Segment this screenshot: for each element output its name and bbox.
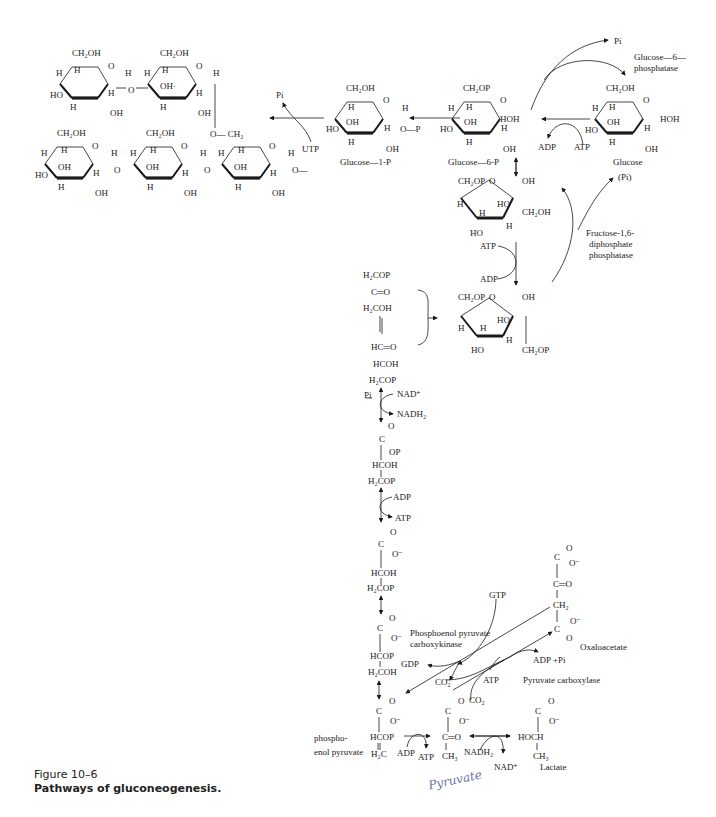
svg-text:O: O [92, 141, 99, 151]
svg-text:H: H [506, 221, 513, 231]
svg-text:O— CH₂: O— CH₂ [210, 129, 243, 139]
svg-text:O⁻: O⁻ [569, 558, 581, 568]
svg-text:O: O [204, 165, 211, 175]
svg-text:NADH₂: NADH₂ [397, 409, 426, 419]
svg-text:H: H [288, 148, 295, 158]
svg-text:C: C [376, 706, 382, 716]
svg-text:H₂COP: H₂COP [369, 375, 396, 385]
svg-text:C: C [378, 539, 384, 549]
svg-text:phospho-: phospho- [314, 733, 348, 743]
svg-text:O: O [108, 61, 115, 71]
svg-text:HOCH: HOCH [518, 732, 544, 742]
svg-text:C═O: C═O [553, 579, 572, 589]
svg-text:O: O [269, 141, 276, 151]
svg-text:CH₂OH: CH₂OH [57, 128, 86, 138]
svg-text:O⁻: O⁻ [392, 549, 404, 559]
svg-text:CH₂OP: CH₂OP [463, 83, 490, 93]
svg-text:H₂COP: H₂COP [368, 476, 395, 486]
svg-text:H: H [384, 123, 391, 133]
svg-text:CH₂OP: CH₂OP [522, 345, 549, 355]
svg-text:C: C [554, 624, 560, 634]
svg-text:C: C [379, 434, 385, 444]
svg-text:O: O [196, 61, 203, 71]
svg-text:CO₂: CO₂ [435, 677, 451, 687]
svg-text:ADP +Pi: ADP +Pi [533, 655, 566, 665]
svg-text:ATP: ATP [418, 752, 434, 762]
svg-text:C: C [445, 706, 451, 716]
svg-text:O: O [458, 696, 465, 706]
svg-text:H₂C: H₂C [371, 749, 387, 759]
svg-text:H: H [200, 148, 207, 158]
glucose-6-phosphate: CH₂OP O HH HOOH HH OH HOH Glucose—6-P [440, 83, 520, 167]
svg-text:H₂COH: H₂COH [363, 303, 392, 313]
svg-text:NADH₂: NADH₂ [464, 747, 493, 757]
svg-text:H: H [196, 88, 203, 98]
svg-text:O: O [489, 292, 496, 302]
3-phosphoglycerate: O C O⁻ HCOH H₂COP [367, 527, 404, 593]
svg-text:H: H [218, 148, 225, 158]
svg-text:H: H [130, 148, 137, 158]
svg-text:ATP: ATP [480, 241, 496, 251]
svg-text:O⁻: O⁻ [391, 633, 403, 643]
svg-text:ATP: ATP [395, 513, 411, 523]
svg-text:H: H [479, 208, 486, 218]
svg-text:Glucose—6—: Glucose—6— [634, 52, 687, 62]
svg-text:HO: HO [440, 124, 453, 134]
svg-text:H: H [270, 168, 277, 178]
svg-text:O⁻: O⁻ [459, 716, 471, 726]
svg-text:H: H [125, 68, 132, 78]
svg-text:H: H [644, 123, 651, 133]
fructose-bisphosphatase-reaction: ATP ADP (Pi) Fructose-1,6- diphosphate p… [480, 172, 634, 285]
svg-text:HOH: HOH [660, 114, 680, 124]
svg-text:Phosphoenol pyruvate: Phosphoenol pyruvate [410, 628, 490, 638]
svg-text:H: H [466, 102, 473, 112]
bisphosphoglycerate: O C OP HCOH H₂COP [368, 421, 401, 486]
svg-text:O: O [489, 176, 496, 186]
carboxylation-arrows: GTP Phosphoenol pyruvate carboxykinase G… [401, 590, 600, 705]
svg-text:Glucose—6-P: Glucose—6-P [448, 157, 499, 167]
svg-text:CO₂: CO₂ [469, 695, 485, 705]
svg-text:diphosphate: diphosphate [589, 239, 633, 249]
svg-text:CH₂OH: CH₂OH [522, 207, 551, 217]
svg-text:O—: O— [292, 165, 308, 175]
svg-text:HC═O: HC═O [371, 342, 397, 352]
svg-text:H: H [609, 102, 616, 112]
svg-text:H: H [70, 102, 77, 112]
svg-text:H: H [213, 68, 220, 78]
svg-text:HO: HO [497, 315, 510, 325]
svg-text:O⁻: O⁻ [390, 716, 402, 726]
svg-text:CH₃: CH₃ [533, 751, 549, 761]
svg-text:NAD⁺: NAD⁺ [494, 762, 519, 772]
svg-text:H: H [592, 103, 599, 113]
svg-text:CH₃: CH₃ [442, 751, 458, 761]
svg-text:HCOP: HCOP [370, 732, 394, 742]
svg-text:H: H [480, 323, 487, 333]
svg-text:OH: OH [272, 188, 285, 198]
svg-text:H₂COP: H₂COP [367, 583, 394, 593]
svg-text:O: O [114, 165, 121, 175]
glucose: CH₂OH O HH HOOH HH OH HOH Glucose [585, 83, 680, 167]
svg-text:H: H [448, 103, 455, 113]
svg-text:Pi: Pi [614, 36, 622, 46]
svg-text:ATP: ATP [483, 675, 499, 685]
svg-text:HCOH: HCOH [372, 460, 398, 470]
figure-number: Figure 10–6 [34, 768, 98, 781]
svg-text:OH: OH [346, 117, 359, 127]
svg-text:H: H [348, 137, 355, 147]
svg-text:Pyruvate carboxylase: Pyruvate carboxylase [523, 675, 600, 685]
svg-text:H: H [182, 168, 189, 178]
svg-text:OH·: OH· [160, 81, 176, 91]
svg-text:Pi: Pi [276, 90, 284, 100]
svg-text:H: H [348, 102, 355, 112]
svg-text:O: O [128, 85, 135, 95]
svg-text:OH: OH [146, 162, 159, 172]
svg-text:OH: OH [503, 144, 516, 154]
svg-text:OH: OH [234, 162, 247, 172]
lactate-dehydrogenase-step: NADH₂ NAD⁺ [464, 736, 519, 772]
svg-text:ADP: ADP [397, 748, 415, 758]
svg-text:Pi: Pi [364, 390, 372, 400]
svg-text:ADP: ADP [480, 274, 498, 284]
svg-text:H: H [466, 137, 473, 147]
lactate: O C O⁻ HOCH CH₃ Lactate [518, 696, 566, 772]
svg-text:H: H [111, 148, 118, 158]
